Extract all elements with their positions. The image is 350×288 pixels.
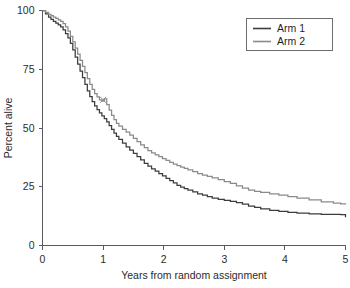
x-tick-label: 1: [100, 253, 106, 265]
kaplan-meier-chart: 0255075100 012345 Percent alive Years fr…: [0, 0, 350, 288]
y-tick-label: 0: [29, 239, 35, 251]
legend-label-arm-1: Arm 1: [277, 22, 305, 34]
x-tick-label: 0: [40, 253, 46, 265]
legend: Arm 1 Arm 2: [247, 19, 333, 51]
x-tick-label: 3: [221, 253, 227, 265]
y-tick-label: 100: [17, 4, 35, 16]
y-tick-label: 75: [23, 63, 35, 75]
y-tick-label: 50: [23, 122, 35, 134]
y-tick-label: 25: [23, 180, 35, 192]
legend-label-arm-2: Arm 2: [277, 35, 305, 47]
y-axis-title: Percent alive: [2, 97, 14, 158]
chart-canvas: 0255075100 012345 Percent alive Years fr…: [0, 0, 350, 288]
x-axis-title: Years from random assignment: [121, 269, 267, 281]
x-tick-label: 4: [282, 253, 288, 265]
x-tick-label: 2: [161, 253, 167, 265]
x-tick-label: 5: [343, 253, 349, 265]
